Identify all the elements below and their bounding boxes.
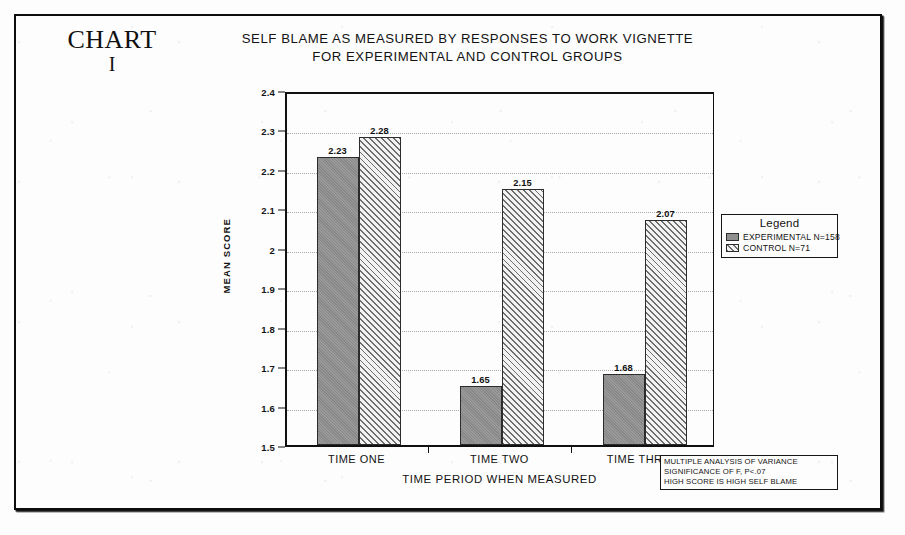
x-axis-category-label: TIME TWO — [470, 453, 529, 465]
y-axis-tick-label: 1.6 — [249, 402, 275, 413]
x-axis-title: TIME PERIOD WHEN MEASURED — [285, 473, 714, 485]
chart-number: CHART I — [32, 26, 192, 76]
bar-value-label: 2.15 — [513, 178, 532, 188]
x-axis-tick-mark — [428, 447, 429, 453]
legend-swatch-control — [726, 244, 739, 252]
y-axis-tick-label: 2.1 — [249, 205, 275, 216]
chart-number-word: CHART — [32, 26, 192, 54]
bar-experimental-time-one: 2.23 — [317, 157, 359, 445]
chart-title-line-2: FOR EXPERIMENTAL AND CONTROL GROUPS — [215, 48, 720, 66]
chart-page: CHART I SELF BLAME AS MEASURED BY RESPON… — [0, 0, 905, 535]
chart-title: SELF BLAME AS MEASURED BY RESPONSES TO W… — [215, 30, 720, 66]
legend-swatch-experimental — [726, 233, 739, 241]
y-axis-tick-label: 1.9 — [249, 284, 275, 295]
footnote-line: HIGH SCORE IS HIGH SELF BLAME — [664, 477, 834, 487]
bar-value-label: 1.68 — [614, 363, 633, 373]
chart-title-line-1: SELF BLAME AS MEASURED BY RESPONSES TO W… — [215, 30, 720, 48]
y-axis-tick-label: 2 — [249, 244, 275, 255]
y-axis-tick-label: 2.2 — [249, 165, 275, 176]
legend-label: CONTROL N=71 — [743, 243, 810, 253]
footnote-box: MULTIPLE ANALYSIS OF VARIANCESIGNIFICANC… — [660, 455, 838, 490]
y-axis-tick-label: 1.5 — [249, 442, 275, 453]
gridline — [287, 133, 713, 134]
legend: Legend EXPERIMENTAL N=158CONTROL N=71 — [721, 214, 838, 258]
footnote-line: SIGNIFICANCE OF F, P<.07 — [664, 467, 834, 477]
bar-value-label: 1.65 — [471, 375, 490, 385]
legend-label: EXPERIMENTAL N=158 — [743, 232, 840, 242]
bar-value-label: 2.07 — [656, 209, 675, 219]
y-axis-tick-mark — [278, 289, 285, 290]
legend-entry-experimental: EXPERIMENTAL N=158 — [726, 232, 833, 242]
legend-title: Legend — [726, 217, 833, 230]
y-axis-tick-label: 2.4 — [249, 87, 275, 98]
x-axis-category-label: TIME ONE — [328, 453, 385, 465]
y-axis-tick-mark — [278, 407, 285, 408]
y-axis-tick-mark — [278, 249, 285, 250]
y-axis-tick-mark — [278, 328, 285, 329]
bar-experimental-time-two: 1.65 — [460, 386, 502, 445]
plot-area: 2.232.281.652.151.682.07 — [285, 92, 714, 447]
y-axis-tick-label: 2.3 — [249, 126, 275, 137]
bar-control-time-three: 2.07 — [645, 220, 687, 445]
legend-entry-control: CONTROL N=71 — [726, 243, 833, 253]
y-axis-tick-mark — [278, 368, 285, 369]
x-axis-tick-mark — [571, 447, 572, 453]
legend-entries: EXPERIMENTAL N=158CONTROL N=71 — [726, 232, 833, 253]
chart-number-numeral: I — [32, 54, 192, 76]
y-axis-tick-label: 1.7 — [249, 363, 275, 374]
y-axis-tick-mark — [278, 210, 285, 211]
bar-value-label: 2.23 — [328, 146, 347, 156]
y-axis-tick-mark — [278, 447, 285, 448]
y-axis-tick-mark — [278, 92, 285, 93]
bar-value-label: 2.28 — [370, 126, 389, 136]
y-axis-tick-label: 1.8 — [249, 323, 275, 334]
bar-control-time-two: 2.15 — [502, 189, 544, 445]
y-axis-title: MEAN SCORE — [221, 218, 235, 293]
bar-experimental-time-three: 1.68 — [603, 374, 645, 445]
y-axis-tick-mark — [278, 170, 285, 171]
bar-control-time-one: 2.28 — [359, 137, 401, 445]
footnote-line: MULTIPLE ANALYSIS OF VARIANCE — [664, 457, 834, 467]
y-axis-tick-mark — [278, 131, 285, 132]
